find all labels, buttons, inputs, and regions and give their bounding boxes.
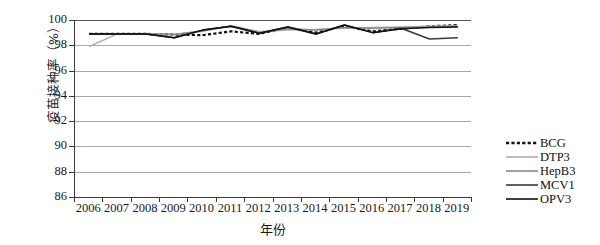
- legend-swatch-icon: [505, 179, 539, 191]
- legend-swatch-icon: [505, 137, 539, 149]
- legend-swatch-icon: [505, 151, 539, 163]
- legend-swatch-icon: [505, 193, 539, 205]
- y-tick-label: 96: [33, 64, 67, 77]
- x-axis-title: 年份: [74, 219, 471, 238]
- chart-figure: 疫苗接种率（%） 10098969492908886 2006200720082…: [0, 0, 600, 245]
- chart-legend: BCGDTP3HepB3MCV1OPV3: [505, 136, 597, 206]
- series-lines: [75, 20, 472, 197]
- y-tick-label: 94: [33, 89, 67, 102]
- legend-item-bcg[interactable]: BCG: [505, 136, 597, 150]
- legend-item-mcv1[interactable]: MCV1: [505, 178, 597, 192]
- legend-label: MCV1: [539, 179, 575, 192]
- legend-item-hepb3[interactable]: HepB3: [505, 164, 597, 178]
- legend-label: BCG: [539, 137, 566, 150]
- legend-label: HepB3: [539, 165, 575, 178]
- y-tick-label: 98: [33, 38, 67, 51]
- y-tick-label: 88: [33, 165, 67, 178]
- y-tick-label: 100: [33, 13, 67, 26]
- legend-item-dtp3[interactable]: DTP3: [505, 150, 597, 164]
- y-tick-label: 92: [33, 114, 67, 127]
- x-tick-label: 2019: [434, 201, 480, 216]
- legend-label: OPV3: [539, 193, 571, 206]
- legend-swatch-icon: [505, 165, 539, 177]
- legend-item-opv3[interactable]: OPV3: [505, 192, 597, 206]
- plot-area: [74, 20, 471, 197]
- legend-label: DTP3: [539, 151, 570, 164]
- y-tick-label: 86: [33, 190, 67, 203]
- y-tick-label: 90: [33, 139, 67, 152]
